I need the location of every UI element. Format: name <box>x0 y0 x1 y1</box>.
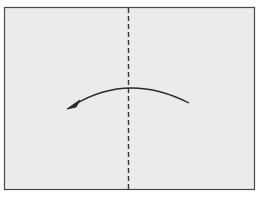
paper-sheet <box>5 8 255 190</box>
origami-fold-diagram <box>0 0 261 198</box>
